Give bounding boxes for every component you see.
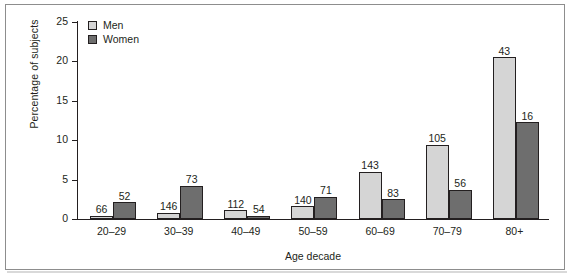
x-axis-tick-label: 60–69 (347, 225, 414, 237)
plot-area: 665214673112541407114383105564316 (78, 22, 548, 219)
legend-label-women: Women (103, 34, 139, 45)
bar-men[interactable]: 143 (359, 172, 382, 219)
bar-group: 14071 (287, 22, 341, 219)
bar-women[interactable]: 83 (382, 199, 405, 219)
bar-women[interactable]: 16 (516, 122, 539, 219)
figure-container: 0510152025 Percentage of subjects Age de… (0, 0, 570, 279)
x-axis-tick-label: 20–29 (78, 225, 145, 237)
bar-men[interactable]: 140 (291, 206, 314, 219)
bar-group: 14383 (355, 22, 409, 219)
figure-frame-shadow (7, 271, 567, 273)
legend-item-women: Women (88, 32, 139, 46)
bar-women[interactable]: 71 (314, 197, 337, 219)
chart-legend: Men Women (88, 18, 139, 46)
bar-value-label: 54 (253, 204, 265, 216)
bar-men[interactable]: 105 (426, 145, 449, 219)
bar-value-label: 56 (454, 178, 466, 190)
men-swatch-icon (88, 21, 97, 30)
bar-group: 10556 (422, 22, 476, 219)
bar-value-label: 43 (499, 46, 511, 58)
bar-women[interactable]: 52 (113, 202, 136, 219)
women-swatch-icon (88, 35, 97, 44)
bar-group: 14673 (153, 22, 207, 219)
bar-men[interactable]: 43 (493, 57, 516, 219)
y-axis-tick (72, 219, 78, 220)
x-axis-tick-label: 70–79 (414, 225, 481, 237)
legend-item-men: Men (88, 18, 139, 32)
y-axis-tick-label: 25 (44, 16, 68, 27)
x-axis-tick-label: 50–59 (279, 225, 346, 237)
x-axis-tick-label: 40–49 (212, 225, 279, 237)
bar-men[interactable]: 146 (157, 213, 180, 219)
bar-value-label: 146 (160, 201, 178, 213)
y-axis-tick-label: 5 (44, 174, 68, 185)
bar-value-label: 105 (428, 133, 446, 145)
bar-women[interactable]: 56 (449, 190, 472, 219)
bar-value-label: 66 (96, 204, 108, 216)
bar-group: 6652 (86, 22, 140, 219)
bar-value-label: 16 (522, 111, 534, 123)
bar-value-label: 52 (119, 191, 131, 203)
x-axis-title: Age decade (78, 250, 548, 262)
x-axis-tick-label: 80+ (481, 225, 548, 237)
bar-women[interactable]: 73 (180, 186, 203, 219)
bar-value-label: 73 (186, 174, 198, 186)
bar-value-label: 112 (227, 199, 244, 211)
bar-group: 4316 (489, 22, 543, 219)
x-axis-line (77, 219, 549, 220)
y-axis-tick-label: 15 (44, 95, 68, 106)
bar-men[interactable]: 66 (90, 216, 113, 219)
x-axis-tick-label: 30–39 (145, 225, 212, 237)
y-axis-tick-label: 10 (44, 134, 68, 145)
bar-value-label: 71 (320, 185, 332, 197)
y-axis-tick-label: 20 (44, 55, 68, 66)
y-axis-tick-label: 0 (44, 213, 68, 224)
bar-value-label: 83 (387, 188, 399, 200)
bar-women[interactable]: 54 (247, 216, 270, 219)
bar-group: 11254 (220, 22, 274, 219)
bar-value-label: 140 (294, 195, 312, 207)
bar-men[interactable]: 112 (224, 210, 247, 219)
legend-label-men: Men (103, 20, 123, 31)
bar-value-label: 143 (361, 160, 379, 172)
y-axis-title: Percentage of subjects (28, 0, 40, 149)
